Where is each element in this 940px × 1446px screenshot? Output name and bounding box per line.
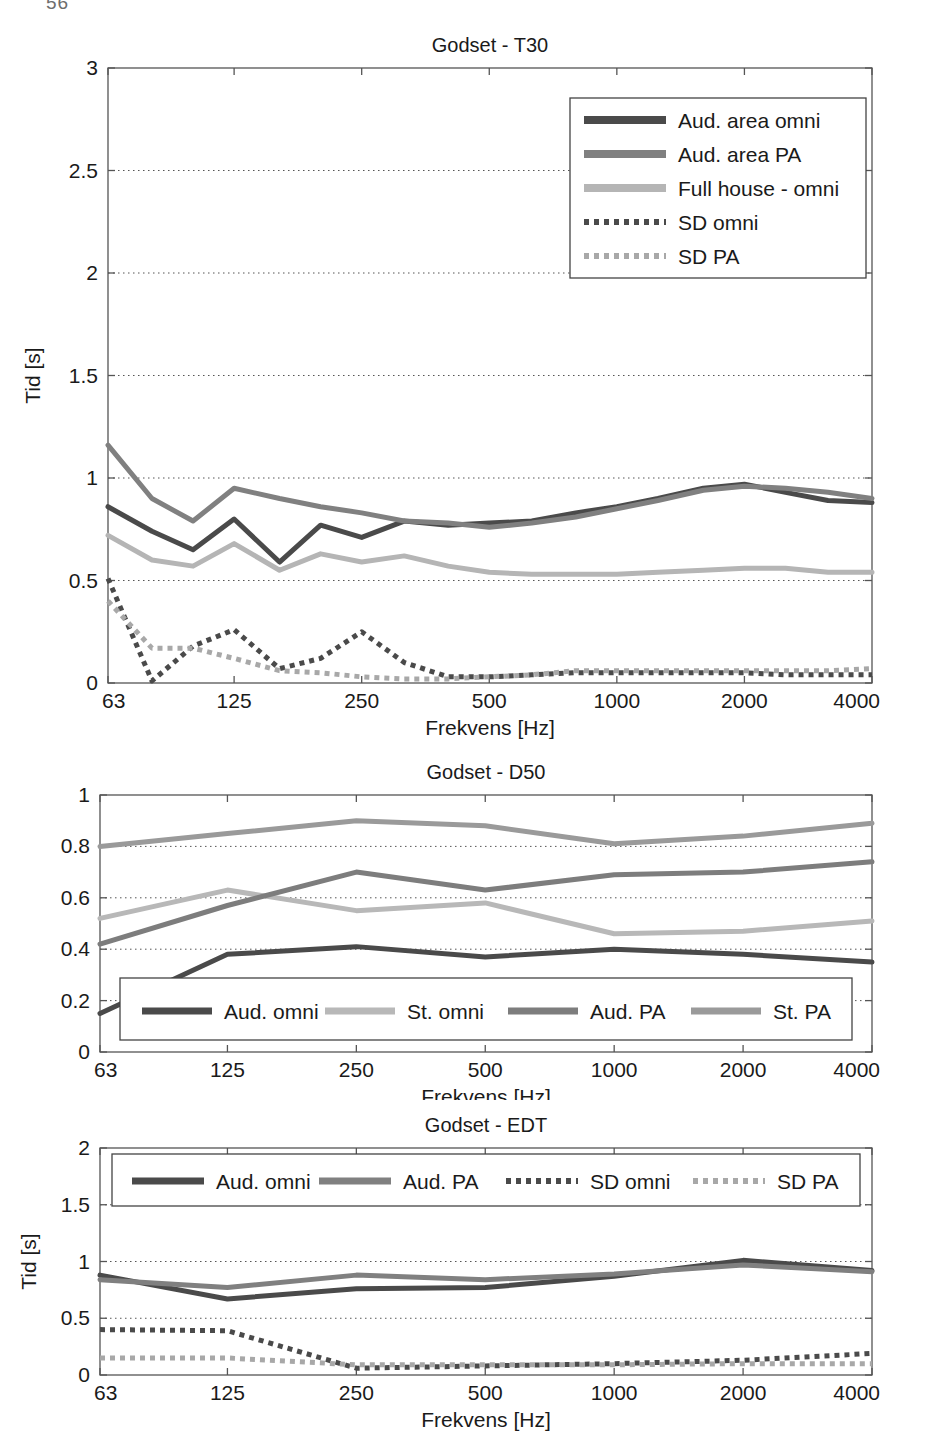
x-tick-label: 125 (210, 1381, 245, 1404)
chart-d50: 00.20.40.60.8163125250500100020004000Fre… (0, 755, 940, 1100)
legend-label-3: SD omni (678, 211, 759, 234)
plot-area: 00.20.40.60.8163125250500100020004000Fre… (0, 755, 940, 1100)
x-tick-label: 500 (468, 1058, 503, 1081)
legend-label-1: Aud. area PA (678, 143, 801, 166)
y-tick-label: 0 (78, 1040, 90, 1063)
chart-title: Godset - D50 (427, 761, 546, 783)
legend-label-2: Aud. PA (590, 1000, 666, 1023)
y-axis-label: Tid [s] (17, 1233, 40, 1289)
page-number: 56 (46, 0, 69, 14)
chart-title: Godset - T30 (432, 34, 548, 56)
x-tick-label: 2000 (720, 1058, 767, 1081)
y-axis-label: Tid [s] (21, 347, 44, 403)
x-tick-label: 2000 (721, 689, 768, 712)
y-tick-label: 0.5 (69, 569, 98, 592)
y-tick-label: 2 (78, 1136, 90, 1159)
x-tick-label: 500 (468, 1381, 503, 1404)
y-tick-label: 0.5 (61, 1306, 90, 1329)
x-tick-label: 4000 (833, 689, 880, 712)
legend-label-2: SD omni (590, 1170, 671, 1193)
x-tick-label: 250 (339, 1381, 374, 1404)
series-line-1 (100, 890, 872, 934)
y-tick-label: 1 (86, 466, 98, 489)
y-tick-label: 0.8 (61, 834, 90, 857)
series-line-1 (108, 445, 872, 527)
x-tick-label: 4000 (833, 1058, 880, 1081)
y-tick-label: 0.4 (61, 937, 91, 960)
x-tick-label: 125 (210, 1058, 245, 1081)
x-tick-label: 4000 (833, 1381, 880, 1404)
x-tick-label: 63 (94, 1381, 117, 1404)
legend-label-1: St. omni (407, 1000, 484, 1023)
chart-title: Godset - EDT (425, 1114, 547, 1136)
y-tick-label: 1 (78, 1250, 90, 1273)
series-line-1 (100, 1265, 872, 1288)
legend-label-3: SD PA (777, 1170, 838, 1193)
chart-edt: 00.511.5263125250500100020004000Frekvens… (0, 1105, 940, 1446)
y-tick-label: 0.6 (61, 886, 90, 909)
plot-area: 00.511.5263125250500100020004000Frekvens… (0, 1105, 940, 1446)
x-tick-label: 1000 (591, 1381, 638, 1404)
x-axis-label: Frekvens [Hz] (421, 1408, 551, 1431)
x-tick-label: 125 (217, 689, 252, 712)
x-tick-label: 250 (339, 1058, 374, 1081)
series-line-2 (108, 535, 872, 574)
legend-label-3: St. PA (773, 1000, 831, 1023)
y-tick-label: 1 (78, 783, 90, 806)
series-line-3 (100, 821, 872, 847)
y-tick-label: 3 (86, 56, 98, 79)
x-tick-label: 500 (472, 689, 507, 712)
y-tick-label: 1.5 (69, 364, 98, 387)
x-tick-label: 63 (94, 1058, 117, 1081)
legend-label-1: Aud. PA (403, 1170, 479, 1193)
legend-label-0: Aud. omni (216, 1170, 311, 1193)
x-tick-label: 1000 (593, 689, 640, 712)
chart-t30: 00.511.522.5363125250500100020004000Frek… (0, 30, 940, 740)
y-tick-label: 2.5 (69, 159, 98, 182)
y-tick-label: 0 (86, 671, 98, 694)
series-line-3 (108, 578, 872, 681)
legend-label-2: Full house - omni (678, 177, 839, 200)
y-tick-label: 0 (78, 1363, 90, 1386)
x-tick-label: 250 (344, 689, 379, 712)
legend-label-0: Aud. area omni (678, 109, 820, 132)
plot-area: 00.511.522.5363125250500100020004000Frek… (0, 30, 940, 740)
x-tick-label: 63 (102, 689, 125, 712)
x-tick-label: 1000 (591, 1058, 638, 1081)
y-tick-label: 2 (86, 261, 98, 284)
legend-label-4: SD PA (678, 245, 739, 268)
series-line-2 (100, 1330, 872, 1369)
series-line-4 (108, 601, 872, 679)
x-axis-label: Frekvens [Hz] (425, 716, 555, 739)
y-tick-label: 1.5 (61, 1193, 90, 1216)
y-tick-label: 0.2 (61, 989, 90, 1012)
x-axis-label: Frekvens [Hz] (421, 1085, 551, 1100)
x-tick-label: 2000 (720, 1381, 767, 1404)
legend-label-0: Aud. omni (224, 1000, 319, 1023)
